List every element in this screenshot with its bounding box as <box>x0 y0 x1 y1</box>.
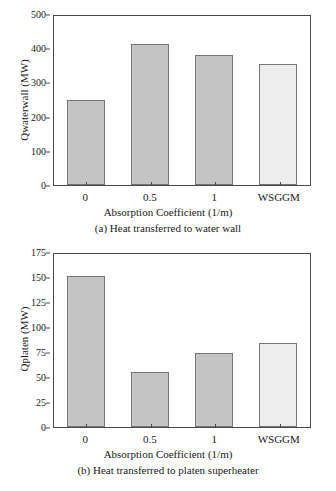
x-tick-mark <box>280 182 281 186</box>
x-tick-label: 1 <box>184 433 244 445</box>
y-tick-mark <box>46 253 50 254</box>
x-tick-label: 1 <box>184 191 244 203</box>
y-tick-mark <box>46 151 50 152</box>
x-tick-label: 0 <box>55 433 115 445</box>
plot-area-a <box>53 15 311 186</box>
y-tick-label: 50 <box>36 373 46 383</box>
x-tick-label: WSGGM <box>249 191 309 203</box>
bar-0-5 <box>131 44 169 185</box>
y-tick-mark <box>46 303 50 304</box>
y-tick-label: 100 <box>31 147 46 157</box>
y-tick-label: 175 <box>31 248 46 258</box>
x-tick-labels-b: 00.51WSGGM <box>53 433 311 445</box>
y-tick-mark <box>46 186 50 187</box>
bar-0 <box>67 100 105 185</box>
y-tick-mark <box>46 403 50 404</box>
x-tick-mark <box>86 182 87 186</box>
y-tick-label: 75 <box>36 348 46 358</box>
y-tick-label: 300 <box>31 78 46 88</box>
y-tick-label: 500 <box>31 10 46 20</box>
y-tick-mark <box>46 15 50 16</box>
y-tick-mark <box>46 353 50 354</box>
y-tick-label: 150 <box>31 273 46 283</box>
y-axis-label-a: Qwaterwall (MW) <box>18 40 30 160</box>
figure-a-water-wall: 0100200300400500 Qwaterwall (MW) 00.51WS… <box>0 0 336 246</box>
y-tick-label: 125 <box>31 298 46 308</box>
x-tick-mark <box>280 424 281 428</box>
x-tick-label: 0 <box>55 191 115 203</box>
x-axis-label-b: Absorption Coefficient (1/m) <box>0 448 336 460</box>
y-tick-label: 200 <box>31 113 46 123</box>
y-tick-mark <box>46 428 50 429</box>
figure-b-platen-superheater: 0255075100125150175 Qplaten (MW) 00.51WS… <box>0 245 336 491</box>
y-tick-mark <box>46 49 50 50</box>
bar-1 <box>195 55 233 185</box>
y-tick-label: 400 <box>31 44 46 54</box>
y-tick-mark <box>46 83 50 84</box>
bar-1 <box>195 353 233 427</box>
x-tick-mark <box>215 182 216 186</box>
y-axis-label-b: Qplaten (MW) <box>18 279 30 399</box>
y-tick-mark <box>46 278 50 279</box>
y-tick-label: 100 <box>31 323 46 333</box>
y-tick-mark <box>46 117 50 118</box>
x-tick-labels-a: 00.51WSGGM <box>53 191 311 203</box>
plot-area-b <box>53 253 311 428</box>
bar-0 <box>67 276 105 427</box>
x-axis-label-a: Absorption Coefficient (1/m) <box>0 206 336 218</box>
x-tick-mark <box>86 424 87 428</box>
x-tick-label: 0.5 <box>120 191 180 203</box>
x-tick-label: 0.5 <box>120 433 180 445</box>
figure-caption-b: (b) Heat transferred to platen superheat… <box>0 464 336 476</box>
y-tick-mark <box>46 328 50 329</box>
x-tick-mark <box>151 182 152 186</box>
bar-series-a <box>54 16 310 185</box>
y-tick-mark <box>46 378 50 379</box>
x-tick-mark <box>215 424 216 428</box>
y-tick-label: 25 <box>36 398 46 408</box>
bar-0-5 <box>131 372 169 427</box>
x-tick-label: WSGGM <box>249 433 309 445</box>
bar-wsggm <box>259 64 297 185</box>
x-tick-mark <box>151 424 152 428</box>
bar-series-b <box>54 254 310 427</box>
figure-caption-a: (a) Heat transferred to water wall <box>0 222 336 234</box>
bar-wsggm <box>259 343 297 427</box>
